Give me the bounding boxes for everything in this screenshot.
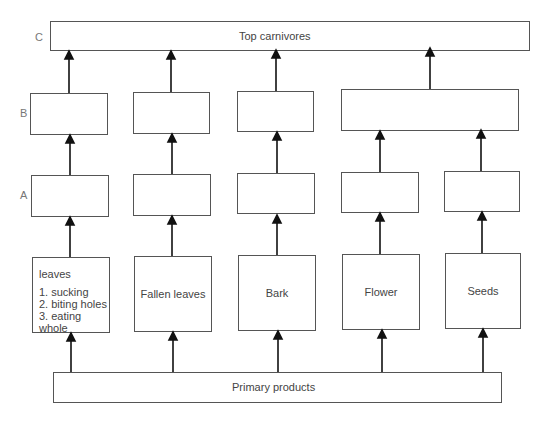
arrows-layer [0,0,537,422]
